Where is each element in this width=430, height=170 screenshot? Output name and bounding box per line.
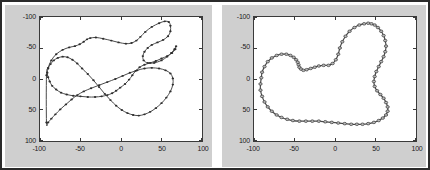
x-tick-mark [80, 138, 81, 141]
x-tick-mark [161, 17, 162, 20]
x-tick-mark [375, 138, 376, 141]
y-tick-mark [413, 109, 416, 110]
converged-contour-svg [254, 17, 416, 141]
y-tick-mark [413, 140, 416, 141]
x-tick-label: 100 [191, 145, 215, 152]
y-tick-mark [254, 17, 257, 18]
y-tick-mark [413, 48, 416, 49]
y-tick-label: 0 [225, 75, 250, 82]
x-tick-mark [294, 17, 295, 20]
initial-contour-plot [39, 16, 203, 142]
x-tick-label: 100 [405, 145, 429, 152]
y-tick-mark [40, 140, 43, 141]
y-tick-label: -100 [11, 13, 36, 20]
y-tick-mark [199, 140, 202, 141]
x-tick-label: -50 [282, 145, 306, 152]
y-tick-mark [254, 79, 257, 80]
x-tick-label: -100 [241, 145, 265, 152]
x-tick-mark [121, 138, 122, 141]
y-tick-label: -50 [11, 43, 36, 50]
x-tick-label: -100 [27, 145, 51, 152]
right-panel: -100 -50 0 50 100 -100 -50 0 50 100 [222, 5, 426, 167]
x-tick-label: 50 [364, 145, 388, 152]
figure-container: -100 -50 0 50 100 -100 -50 0 50 100 -100… [0, 0, 430, 170]
y-tick-mark [40, 17, 43, 18]
x-tick-mark [201, 17, 202, 20]
y-tick-label: 0 [11, 75, 36, 82]
x-tick-mark [121, 17, 122, 20]
left-panel: -100 -50 0 50 100 -100 -50 0 50 100 [5, 5, 212, 167]
y-tick-label: -100 [225, 13, 250, 20]
y-tick-mark [413, 79, 416, 80]
converged-snake-markers [259, 22, 390, 126]
x-tick-mark [375, 17, 376, 20]
y-tick-label: 100 [225, 137, 250, 144]
initial-snake-curve [46, 21, 176, 126]
y-tick-label: 50 [11, 106, 36, 113]
x-tick-mark [294, 138, 295, 141]
y-tick-label: -50 [225, 43, 250, 50]
x-tick-mark [161, 138, 162, 141]
x-tick-label: -50 [68, 145, 92, 152]
y-tick-mark [254, 140, 257, 141]
y-tick-mark [199, 79, 202, 80]
y-tick-mark [199, 48, 202, 49]
y-tick-mark [40, 109, 43, 110]
x-tick-label: 50 [150, 145, 174, 152]
x-tick-mark [335, 138, 336, 141]
converged-snake-curve [260, 23, 388, 124]
converged-contour-plot [253, 16, 417, 142]
x-tick-label: 0 [109, 145, 133, 152]
y-tick-mark [40, 79, 43, 80]
x-tick-label: 0 [323, 145, 347, 152]
y-tick-label: 100 [11, 137, 36, 144]
y-tick-mark [254, 48, 257, 49]
x-tick-mark [415, 17, 416, 20]
y-tick-mark [199, 109, 202, 110]
y-tick-mark [254, 109, 257, 110]
initial-contour-svg [40, 17, 202, 141]
x-tick-mark [335, 17, 336, 20]
y-tick-mark [40, 48, 43, 49]
initial-snake-markers [45, 20, 177, 123]
x-tick-mark [80, 17, 81, 20]
y-tick-label: 50 [225, 106, 250, 113]
